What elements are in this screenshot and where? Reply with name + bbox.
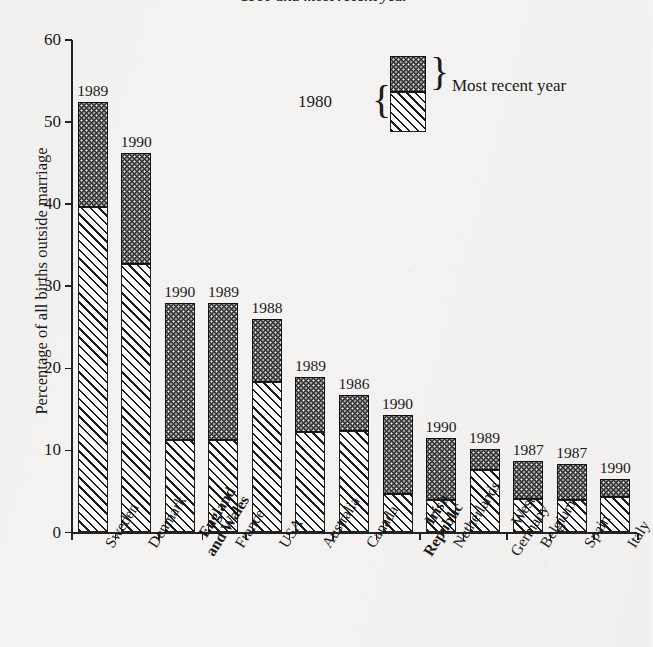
- bar-segment-most-recent-year: [383, 415, 413, 494]
- legend-brace-right-icon: }: [430, 52, 449, 92]
- bar-segment-1980: [121, 264, 151, 532]
- bar-segment-most-recent-year: [165, 303, 195, 440]
- bar-australia[interactable]: [295, 377, 325, 532]
- legend-swatch-recent-year: [390, 56, 426, 92]
- bar-year-label: 1990: [110, 134, 162, 150]
- y-tick-mark: [65, 121, 72, 123]
- bar-year-label: 1986: [328, 376, 380, 392]
- y-tick-mark: [65, 368, 72, 370]
- legend-swatch-1980: [390, 92, 426, 132]
- bar-segment-most-recent-year: [513, 461, 543, 499]
- x-label-irish-republic: IrishRepublic: [407, 492, 466, 559]
- bar-segment-1980: [78, 207, 108, 532]
- y-tick-mark: [65, 285, 72, 287]
- bar-segment-most-recent-year: [339, 395, 369, 431]
- bar-year-label: 1988: [241, 300, 293, 316]
- bar-segment-most-recent-year: [600, 479, 630, 497]
- bar-year-label: 1990: [589, 460, 641, 476]
- bar-segment-1980: [295, 432, 325, 533]
- bar-sweden[interactable]: [78, 102, 108, 532]
- bar-usa[interactable]: [252, 319, 282, 532]
- legend-swatch: [390, 56, 426, 132]
- bar-segment-most-recent-year: [426, 438, 456, 500]
- bar-year-label: 1989: [284, 358, 336, 374]
- x-tick-mark: [71, 533, 73, 540]
- y-tick-label: 30: [27, 277, 61, 294]
- y-tick-label: 40: [27, 195, 61, 212]
- bar-segment-most-recent-year: [252, 319, 282, 382]
- bar-year-label: 1989: [67, 83, 119, 99]
- bar-segment-most-recent-year: [208, 303, 238, 440]
- y-tick-mark: [65, 450, 72, 452]
- y-tick-label: 60: [27, 31, 61, 48]
- y-tick-mark: [65, 39, 72, 41]
- bar-segment-most-recent-year: [78, 102, 108, 207]
- y-tick-label: 10: [27, 441, 61, 458]
- bar-segment-most-recent-year: [557, 464, 587, 500]
- y-tick-label: 20: [27, 359, 61, 376]
- legend-label-1980: 1980: [298, 92, 332, 112]
- y-tick-label: 50: [27, 113, 61, 130]
- bar-segment-most-recent-year: [121, 153, 151, 264]
- legend-label-most-recent-year: Most recent year: [452, 76, 566, 96]
- bar-year-label: 1990: [372, 396, 424, 412]
- bar-denmark[interactable]: [121, 153, 151, 532]
- legend-brace-left-icon: {: [372, 80, 391, 120]
- y-tick-label: 0: [27, 524, 61, 541]
- bar-year-label: 1989: [197, 284, 249, 300]
- y-tick-mark: [65, 203, 72, 205]
- bar-segment-most-recent-year: [295, 377, 325, 431]
- bar-year-label: 1987: [546, 445, 598, 461]
- bar-segment-most-recent-year: [470, 449, 500, 470]
